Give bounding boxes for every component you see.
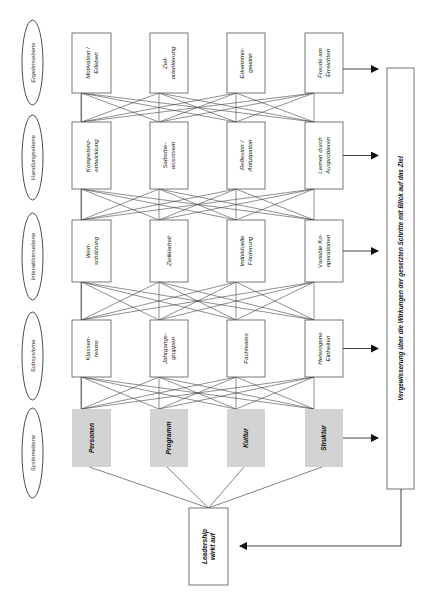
box-text-line: Lernen durch: [316, 137, 323, 174]
box-label: Freude amErreichten: [316, 48, 331, 78]
box-text-line: Erleben: [92, 52, 99, 74]
box-ergebnisebene-3: Erkenntnis-gewinn: [227, 33, 265, 93]
box-ergebnisebene-2: Ziel-orientierung: [150, 33, 188, 93]
box-handlungsebene-1: Kompetenz-entwicklung: [72, 122, 111, 189]
box-text-line: Einheiten: [324, 335, 331, 361]
box-text-line: Wert-: [84, 243, 91, 258]
level-label: Ergebnisebene: [30, 42, 36, 83]
box-text-line: Erreichten: [324, 48, 331, 77]
level-label: Handlungsebene: [30, 134, 36, 180]
box-subsysteme-2: Jahrgangs-gruppen: [150, 320, 188, 377]
box-label: Personen: [88, 423, 95, 453]
box-text-line: Klassen-: [84, 336, 91, 360]
box-text-line: Kultur: [242, 428, 249, 448]
box-text-line: gruppen: [169, 337, 176, 360]
box-handlungsebene-2: Selbstbe-wusstsein: [150, 122, 188, 189]
box-systemebene-3: Kultur: [227, 409, 265, 467]
box-label: Klassen-teams: [84, 336, 99, 360]
box-text-line: orientierung: [169, 46, 176, 79]
box-text-line: Motivation /: [84, 46, 91, 79]
box-interaktionsebene-4: Variable Ko-operationen: [305, 220, 343, 282]
level-text: Ergebnisebene: [30, 42, 36, 83]
box-text-line: Freude am: [316, 48, 323, 78]
box-subsysteme-3: Fachteams: [227, 320, 265, 377]
box-text-line: entwicklung: [92, 139, 99, 172]
box-label: Fachteams: [242, 333, 249, 364]
box-text-line: Leadership: [201, 529, 209, 564]
box-text-line: Erkenntnis-: [238, 47, 245, 78]
box-label: Variable Ko-operationen: [316, 234, 331, 268]
box-label: IndividuelleFörderung: [238, 235, 253, 267]
level-label: Systemebene: [30, 434, 36, 471]
box-label: Selbstbe-wusstsein: [161, 141, 176, 169]
level-text: Handlungsebene: [30, 134, 36, 180]
box-label: Zielklarheit: [165, 236, 172, 267]
box-text-line: Antizipation: [246, 139, 253, 173]
box-systemebene-4: Struktur: [305, 409, 343, 467]
box-text-line: operationen: [324, 234, 331, 267]
box-handlungsebene-3: Reflexion /Antizipation: [227, 122, 265, 189]
reflection-box: Vergewisserung über die Wirkungen der ge…: [387, 68, 414, 489]
box-text-line: Jahrgangs-: [161, 333, 168, 365]
box-label: Kompetenz-entwicklung: [84, 139, 99, 172]
leadership-connector: [209, 467, 323, 508]
box-text-line: Heterogene: [316, 332, 323, 365]
level-text: Systemebene: [30, 434, 36, 471]
box-text-line: Programm: [165, 421, 173, 454]
level-ellipses: ErgebnisebeneHandlungsebeneInteraktionse…: [22, 20, 43, 498]
box-text-line: Selbstbe-: [161, 142, 168, 168]
box-text-line: schätzung: [92, 236, 99, 265]
box-interaktionsebene-3: IndividuelleFörderung: [227, 220, 265, 282]
box-text-line: Ausprobieren: [324, 137, 331, 175]
level-label: Subsysteme: [30, 339, 36, 373]
feedback-arrow: [240, 489, 401, 546]
box-text-line: wusstsein: [169, 141, 176, 169]
leadership-connector: [167, 467, 209, 508]
box-text-line: teams: [92, 340, 99, 357]
level-text: Interaktionsebene: [30, 232, 36, 280]
leadership-box: Leadershipwirkt auf: [189, 508, 228, 585]
box-ergebnisebene-1: Motivation /Erleben: [72, 33, 111, 93]
reflection-label: Vergewisserung über die Wirkungen der ge…: [397, 156, 405, 401]
leadership-connector: [90, 467, 209, 508]
box-text-line: Personen: [88, 423, 95, 453]
box-subsysteme-4: HeterogeneEinheiten: [305, 320, 343, 377]
connector-lines: [81, 93, 314, 409]
box-text-line: Fachteams: [242, 333, 249, 364]
box-label: Reflexion /Antizipation: [238, 139, 253, 173]
level-text: Subsysteme: [30, 339, 36, 373]
box-text-line: wirkt auf: [209, 532, 216, 560]
reflection-text: Vergewisserung über die Wirkungen der ge…: [397, 156, 405, 401]
box-label: Programm: [165, 421, 173, 454]
box-handlungsebene-4: Lernen durchAusprobieren: [305, 122, 343, 189]
box-text-line: Förderung: [246, 236, 253, 265]
box-ergebnisebene-4: Freude amErreichten: [305, 33, 343, 93]
level-label: Interaktionsebene: [30, 232, 36, 280]
box-text-line: Variable Ko-: [316, 234, 323, 268]
leadership-diagram: ErgebnisebeneHandlungsebeneInteraktionse…: [0, 0, 431, 601]
box-text-line: Kompetenz-: [84, 139, 91, 172]
box-label: Lernen durchAusprobieren: [316, 137, 331, 175]
box-subsysteme-1: Klassen-teams: [72, 320, 111, 377]
box-interaktionsebene-1: Wert-schätzung: [72, 220, 111, 282]
leadership-label: Leadershipwirkt auf: [201, 529, 216, 564]
box-text-line: Reflexion /: [238, 140, 245, 171]
box-text-line: Zielklarheit: [165, 236, 172, 267]
box-text-line: gewinn: [246, 53, 253, 73]
box-systemebene-1: Personen: [72, 409, 111, 467]
box-text-line: Struktur: [320, 425, 327, 451]
box-text-line: Ziel-: [161, 57, 168, 70]
box-label: Jahrgangs-gruppen: [161, 333, 176, 365]
box-label: Kultur: [242, 428, 249, 448]
box-systemebene-2: Programm: [150, 409, 188, 467]
box-interaktionsebene-2: Zielklarheit: [150, 220, 188, 282]
box-label: HeterogeneEinheiten: [316, 332, 331, 365]
box-text-line: Individuelle: [238, 235, 245, 267]
box-label: Struktur: [320, 425, 327, 451]
